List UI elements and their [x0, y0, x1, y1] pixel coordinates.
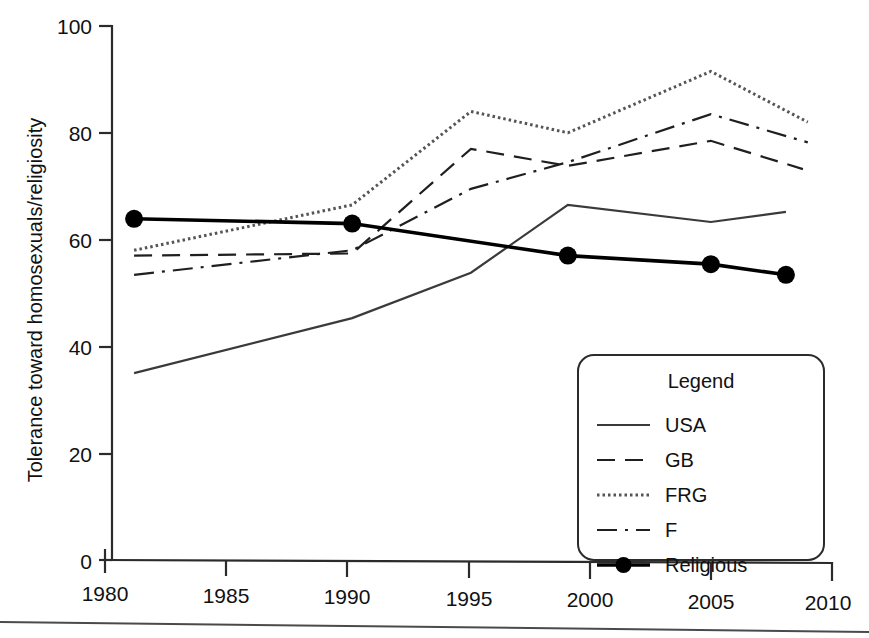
- x-tick-label-2010: 2010: [805, 591, 852, 614]
- series-f: [134, 114, 808, 275]
- x-tick-label-2005: 2005: [688, 590, 735, 613]
- y-tick-label-20: 20: [69, 443, 92, 466]
- legend-swatch-marker: [616, 557, 632, 573]
- x-tick-label-1985: 1985: [203, 584, 250, 607]
- y-tick-label-0: 0: [80, 550, 92, 573]
- line-chart: Tolerance toward homosexuals/religiosity…: [0, 0, 869, 638]
- legend-label-usa[interactable]: USA: [665, 414, 707, 436]
- y-tick-label-100: 100: [57, 15, 92, 38]
- series-layer: [125, 71, 808, 373]
- legend-title: Legend: [668, 370, 735, 392]
- figure-container: Tolerance toward homosexuals/religiosity…: [0, 0, 869, 638]
- y-tick-label-80: 80: [69, 122, 92, 145]
- y-tick-label-60: 60: [69, 229, 92, 252]
- y-tick-label-40: 40: [69, 336, 92, 359]
- x-tick-label-1990: 1990: [324, 585, 371, 608]
- y-axis: [99, 26, 112, 560]
- y-axis-title: Tolerance toward homosexuals/religiosity: [24, 118, 46, 483]
- series-gb: [134, 141, 803, 256]
- series-line-gb: [134, 141, 803, 256]
- legend-label-f[interactable]: F: [665, 519, 677, 541]
- data-point-marker: [343, 215, 361, 233]
- x-tick-label-1995: 1995: [446, 587, 493, 610]
- legend[interactable]: Legend USA GB FRG F Religious: [578, 355, 824, 576]
- series-line-religious: [134, 219, 786, 275]
- legend-label-gb[interactable]: GB: [665, 449, 694, 471]
- x-axis-tick-labels: 1980 1985 1990 1995 2000 2005 2010: [82, 582, 852, 614]
- data-point-marker: [777, 266, 795, 284]
- y-axis-tick-labels: 100 80 60 40 20 0: [57, 15, 92, 573]
- data-point-marker: [125, 210, 143, 228]
- series-frg: [134, 71, 808, 250]
- legend-label-religious[interactable]: Religious: [665, 554, 747, 576]
- data-point-marker: [702, 255, 720, 273]
- data-point-marker: [559, 247, 577, 265]
- page-footer-rule: [0, 622, 869, 632]
- series-line-f: [134, 114, 808, 275]
- legend-label-frg[interactable]: FRG: [665, 484, 707, 506]
- x-tick-label-2000: 2000: [567, 588, 614, 611]
- series-line-frg: [134, 71, 808, 250]
- x-tick-label-1980: 1980: [82, 582, 129, 605]
